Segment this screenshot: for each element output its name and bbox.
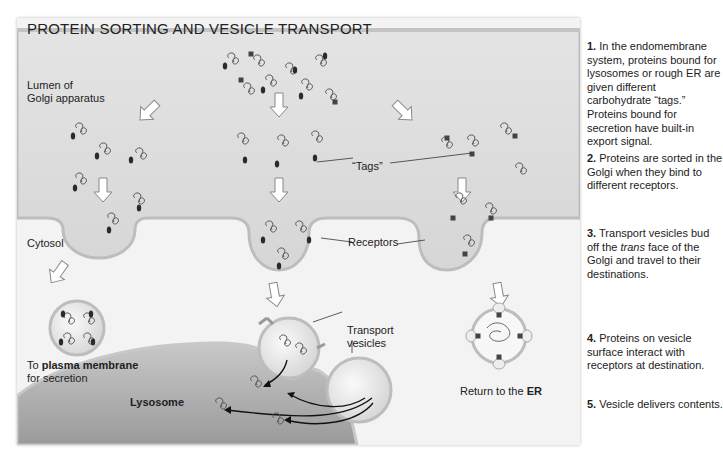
er-prefix: Return to the [460, 385, 527, 397]
label-tags: “Tags” [352, 160, 383, 173]
plasma-prefix: To [27, 359, 42, 371]
plasma-line2: for secretion [27, 372, 138, 385]
step-number: 4. [587, 332, 596, 344]
plasma-bold: plasma membrane [42, 359, 139, 371]
golgi-lumen [17, 30, 580, 270]
step-text: Proteins on vesicle surface interact wit… [587, 332, 704, 371]
secretory-vesicle [50, 301, 104, 355]
label-lysosome: Lysosome [130, 396, 184, 409]
label-cytosol: Cytosol [27, 237, 64, 250]
step-number: 2. [587, 152, 596, 164]
label-lumen: Lumen of Golgi apparatus [27, 79, 105, 105]
label-lumen-line2: Golgi apparatus [27, 92, 105, 105]
step-1: 1. In the endomembrane system, proteins … [587, 40, 723, 149]
label-plasma-membrane: To plasma membrane for secretion [27, 359, 138, 385]
step-2: 2. Proteins are sorted in the Golgi when… [587, 152, 723, 193]
label-transport-line1: Transport [347, 324, 394, 337]
step-text: In the endomembrane system, proteins bou… [587, 40, 720, 147]
step-5: 5. Vesicle delivers contents. [587, 398, 723, 412]
label-transport-line2: vesicles [347, 337, 394, 350]
er-vesicle [466, 303, 532, 369]
step-number: 1. [587, 40, 596, 52]
step-text-italic: trans [620, 241, 644, 253]
label-receptors: Receptors [348, 236, 398, 249]
step-number: 3. [587, 227, 596, 239]
label-transport-vesicles: Transport vesicles [347, 324, 394, 350]
step-4: 4. Proteins on vesicle surface interact … [587, 332, 723, 373]
step-3: 3. Transport vesicles bud off the trans … [587, 227, 723, 281]
label-lumen-line1: Lumen of [27, 79, 105, 92]
step-text: Proteins are sorted in the Golgi when th… [587, 152, 722, 191]
er-bold: ER [527, 385, 542, 397]
label-return-er: Return to the ER [460, 385, 542, 398]
step-number: 5. [587, 398, 596, 410]
figure-title: PROTEIN SORTING AND VESICLE TRANSPORT [27, 20, 372, 37]
step-text: Vesicle delivers contents. [599, 398, 723, 410]
